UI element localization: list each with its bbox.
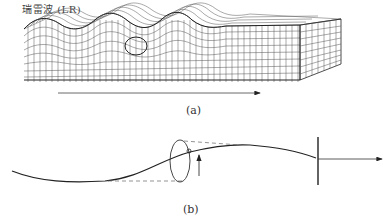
wave-profile [12,137,382,185]
particle-motion-ellipse [170,140,190,182]
panel-a-caption: (a) [186,104,201,117]
medium-block [24,3,341,82]
panel-b-caption: (b) [183,203,199,216]
